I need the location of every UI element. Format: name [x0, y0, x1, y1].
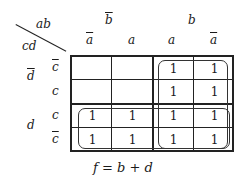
row-header-c-2: c — [52, 109, 59, 121]
col-group-b-bar: b — [105, 14, 113, 26]
cell-r0-c0 — [72, 57, 113, 81]
col-header-a-2: a — [168, 34, 175, 46]
col-header-a-bar-1: a — [86, 34, 93, 46]
col-header-a-1: a — [128, 34, 135, 46]
row-header-c-1: c — [52, 85, 59, 97]
col-group-b: b — [188, 14, 196, 26]
cell-r0-c1 — [112, 57, 153, 81]
grouping-loop-d — [78, 108, 230, 149]
row-header-c-bar-1: c — [52, 61, 59, 73]
cell-r1-c0 — [72, 80, 113, 104]
boolean-equation: f = b + d — [0, 160, 246, 175]
row-header-c-bar-2: c — [52, 133, 59, 145]
cell-r1-c1 — [112, 80, 153, 104]
row-group-d-bar: d — [27, 70, 35, 82]
col-header-a-bar-2: a — [210, 34, 217, 46]
column-vars-label: ab — [36, 18, 51, 30]
row-vars-label: cd — [22, 40, 36, 52]
karnaugh-grid: 1 1 1 1 1 1 1 1 1 1 1 1 — [70, 55, 234, 152]
row-group-d: d — [27, 119, 35, 131]
